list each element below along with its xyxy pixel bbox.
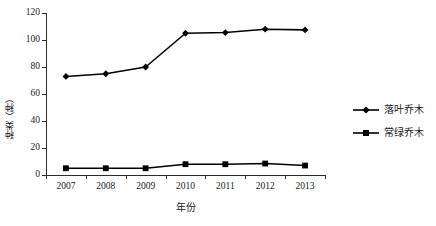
legend-marker-square-icon — [352, 127, 380, 139]
legend-item[interactable]: 落叶乔木 — [352, 104, 424, 116]
series-plot — [46, 13, 325, 175]
y-tick-label: 40 — [31, 116, 41, 126]
data-point — [222, 29, 229, 36]
data-point — [222, 161, 228, 167]
legend-label: 常绿乔木 — [384, 128, 424, 138]
data-point — [262, 26, 269, 33]
x-tick-label: 2013 — [296, 182, 315, 192]
y-tick-label: 60 — [31, 89, 41, 99]
x-tick — [245, 175, 246, 179]
data-point — [63, 165, 69, 171]
x-tick — [46, 175, 47, 179]
y-tick-label: 20 — [31, 143, 41, 153]
data-point — [302, 163, 308, 169]
y-axis-title: 种类（种） — [2, 94, 15, 139]
data-point — [102, 70, 109, 77]
data-point — [262, 161, 268, 167]
y-tick-label: 0 — [35, 170, 40, 180]
x-tick — [205, 175, 206, 179]
y-tick-label: 80 — [31, 62, 41, 72]
x-tick-label: 2009 — [136, 182, 155, 192]
x-axis-title: 年份 — [46, 199, 325, 214]
x-tick-label: 2012 — [256, 182, 275, 192]
data-point — [103, 165, 109, 171]
series-square — [63, 161, 308, 172]
x-tick-label: 2007 — [56, 182, 75, 192]
x-tick-label: 2008 — [96, 182, 115, 192]
series-diamond — [63, 26, 309, 80]
x-tick-label: 2010 — [176, 182, 195, 192]
data-point — [183, 161, 189, 167]
legend-marker-diamond-icon — [352, 104, 380, 116]
line-chart: 种类（种） 020406080100120 200720082009201020… — [0, 0, 436, 226]
chart-legend: 落叶乔木常绿乔木 — [352, 104, 424, 139]
y-tick-label: 120 — [26, 8, 40, 18]
y-tick-label: 100 — [26, 35, 40, 45]
x-axis-line — [46, 175, 325, 176]
x-tick — [126, 175, 127, 179]
legend-item[interactable]: 常绿乔木 — [352, 127, 424, 139]
x-tick — [166, 175, 167, 179]
x-tick — [285, 175, 286, 179]
x-tick — [86, 175, 87, 179]
data-point — [302, 26, 309, 33]
x-tick — [325, 175, 326, 179]
plot-area: 020406080100120 200720082009201020112012… — [46, 13, 325, 175]
x-tick-label: 2011 — [216, 182, 235, 192]
legend-label: 落叶乔木 — [384, 105, 424, 115]
data-point — [63, 73, 70, 80]
data-point — [143, 165, 149, 171]
